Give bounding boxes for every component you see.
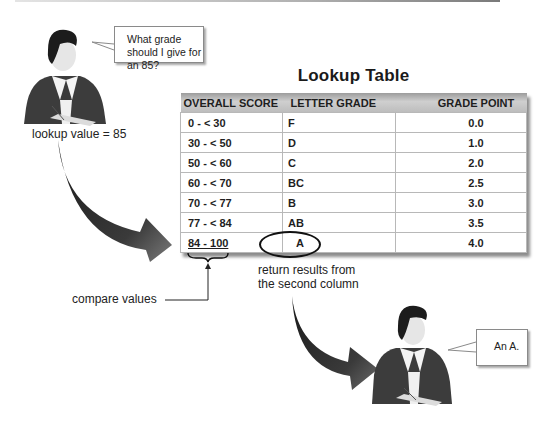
result-highlight-ellipse — [259, 231, 321, 258]
letter-cell: C — [283, 153, 396, 173]
compare-connector — [165, 267, 208, 300]
table-row: 60 - < 70 BC 2.5 — [181, 173, 527, 193]
point-cell: 3.0 — [396, 193, 527, 213]
letter-cell: D — [283, 133, 396, 153]
arrow-to-table-icon — [58, 140, 172, 262]
score-cell: 70 - < 77 — [181, 193, 283, 213]
table-row: 0 - < 30 F 0.0 — [181, 113, 527, 133]
arrow-to-answer-icon — [292, 296, 378, 390]
answer-speech-bubble: An A. — [476, 329, 528, 366]
point-cell: 3.5 — [396, 213, 527, 233]
teacher-figure-top — [24, 30, 106, 126]
point-cell: 4.0 — [396, 233, 527, 253]
score-cell: 60 - < 70 — [181, 173, 283, 193]
score-cell: 30 - < 50 — [181, 133, 283, 153]
table-row: 77 - < 84 AB 3.5 — [181, 213, 527, 233]
header-grade-point: GRADE POINT — [396, 93, 527, 113]
brace-icon — [188, 253, 228, 262]
point-cell: 2.5 — [396, 173, 527, 193]
header-overall-score: OVERALL SCORE — [181, 93, 283, 113]
compare-values-label: compare values — [72, 292, 157, 306]
score-cell: 77 - < 84 — [181, 213, 283, 233]
table-row: 70 - < 77 B 3.0 — [181, 193, 527, 213]
table-row: 30 - < 50 D 1.0 — [181, 133, 527, 153]
teacher-figure-bottom — [372, 306, 452, 406]
lookup-table-title: Lookup Table — [180, 66, 527, 86]
table-row-matched: 84 - 100 A 4.0 — [181, 233, 527, 253]
bubble-tail-bottom — [448, 342, 476, 352]
header-letter-grade: LETTER GRADE — [283, 93, 396, 113]
return-label-line1: return results from — [258, 263, 359, 277]
lookup-table: OVERALL SCORE LETTER GRADE GRADE POINT 0… — [180, 93, 527, 253]
score-cell: 0 - < 30 — [181, 113, 283, 133]
letter-cell: BC — [283, 173, 396, 193]
question-speech-bubble: What grade should I give for an 85? — [114, 26, 204, 63]
point-cell: 2.0 — [396, 153, 527, 173]
bubble-tail-top — [92, 42, 114, 50]
letter-cell: AB — [283, 213, 396, 233]
matched-score: 84 - 100 — [188, 237, 228, 249]
arrowhead-icon — [205, 263, 211, 269]
letter-cell: F — [283, 113, 396, 133]
letter-cell: B — [283, 193, 396, 213]
point-cell: 0.0 — [396, 113, 527, 133]
point-cell: 1.0 — [396, 133, 527, 153]
score-cell: 50 - < 60 — [181, 153, 283, 173]
return-label-line2: the second column — [258, 277, 359, 291]
return-results-label: return results from the second column — [258, 263, 359, 291]
table-row: 50 - < 60 C 2.0 — [181, 153, 527, 173]
table-header-row: OVERALL SCORE LETTER GRADE GRADE POINT — [181, 93, 527, 113]
lookup-value-label: lookup value = 85 — [32, 127, 126, 141]
answer-text: An A. — [494, 340, 519, 352]
